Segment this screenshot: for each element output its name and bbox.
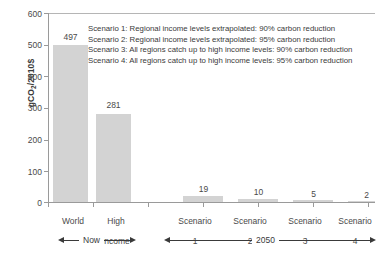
chart-figure: gCO2/2010$ 600 500 400 300 200 100 0 bbox=[0, 0, 384, 258]
y-tick-mark-200 bbox=[44, 140, 48, 141]
bar-scenario-4[interactable] bbox=[348, 201, 375, 202]
y-tick-mark-300 bbox=[44, 108, 48, 109]
period-2050-right-arrow-icon bbox=[370, 237, 376, 243]
bar-scenario-1[interactable] bbox=[183, 196, 223, 202]
y-tick-mark-400 bbox=[44, 76, 48, 77]
period-bracket-now: Now bbox=[58, 234, 136, 248]
y-axis-line bbox=[48, 13, 49, 203]
x-category-label-scenario-1-line1: Scenario bbox=[178, 216, 212, 226]
y-tick-label-100: 100 bbox=[16, 167, 42, 177]
bar-scenario-2[interactable] bbox=[238, 199, 278, 202]
legend-line-scenario-4: Scenario 4: All regions catch up to high… bbox=[88, 56, 352, 67]
x-category-label-scenario-4-line1: Scenario bbox=[338, 216, 372, 226]
y-axis-title-subscript: 2 bbox=[30, 85, 37, 89]
legend-line-scenario-2: Scenario 2: Regional income levels extra… bbox=[88, 35, 352, 46]
bar-world[interactable] bbox=[53, 45, 88, 202]
legend-line-scenario-1: Scenario 1: Regional income levels extra… bbox=[88, 24, 352, 35]
x-category-label-scenario-2-line1: Scenario bbox=[233, 216, 267, 226]
bar-value-scenario-3: 5 bbox=[291, 190, 336, 199]
bar-value-high-income: 281 bbox=[86, 101, 141, 110]
x-tick-mark-2 bbox=[148, 203, 149, 207]
y-tick-mark-500 bbox=[44, 45, 48, 46]
y-tick-label-600: 600 bbox=[16, 9, 42, 19]
y-tick-label-500: 500 bbox=[16, 40, 42, 50]
bar-value-scenario-2: 10 bbox=[236, 188, 281, 197]
y-tick-label-0: 0 bbox=[16, 198, 42, 208]
plot-top-border bbox=[48, 13, 375, 14]
scenario-legend: Scenario 1: Regional income levels extra… bbox=[88, 24, 352, 66]
y-tick-mark-600 bbox=[44, 13, 48, 14]
y-tick-label-400: 400 bbox=[16, 72, 42, 82]
x-axis-line bbox=[48, 202, 375, 203]
bar-high-income[interactable] bbox=[96, 114, 131, 203]
bar-scenario-3[interactable] bbox=[293, 200, 333, 202]
x-category-label-world-line1: World bbox=[62, 216, 84, 226]
period-2050-left-arrow-icon bbox=[164, 237, 170, 243]
period-2050-label: 2050 bbox=[252, 234, 279, 247]
y-tick-label-200: 200 bbox=[16, 135, 42, 145]
period-now-label: Now bbox=[79, 234, 104, 247]
y-tick-label-300: 300 bbox=[16, 103, 42, 113]
period-now-left-arrow-icon bbox=[58, 237, 64, 243]
legend-line-scenario-3: Scenario 3: All regions catch up to high… bbox=[88, 45, 352, 56]
y-tick-mark-100 bbox=[44, 171, 48, 172]
x-category-label-high-income-line1: High bbox=[107, 216, 124, 226]
bar-value-scenario-1: 19 bbox=[181, 185, 226, 194]
period-bracket-2050: 2050 bbox=[164, 234, 376, 248]
x-category-label-scenario-3-line1: Scenario bbox=[288, 216, 322, 226]
bar-value-scenario-4: 2 bbox=[344, 191, 384, 200]
period-now-right-arrow-icon bbox=[130, 237, 136, 243]
